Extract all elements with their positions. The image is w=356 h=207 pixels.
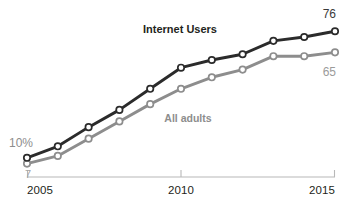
chart-canvas: 2005 2010 2015 Internet Users All adults… [0, 0, 356, 207]
data-point-internet-users-2009 [147, 86, 153, 92]
data-point-all-adults-2007 [85, 135, 91, 141]
series-annotation-internet-users: Internet Users [143, 23, 217, 35]
data-point-internet-users-2007 [85, 124, 91, 130]
series-markers-internet-users [24, 28, 338, 161]
end-value-label-all-adults: 65 [323, 65, 337, 79]
data-point-all-adults-2013 [270, 53, 276, 59]
data-point-all-adults-2009 [147, 101, 153, 107]
data-point-internet-users-2015 [332, 28, 338, 34]
data-point-all-adults-2014 [301, 53, 307, 59]
series-annotation-all-adults: All adults [164, 112, 211, 124]
end-value-label-internet-users: 76 [323, 7, 337, 21]
data-point-all-adults-2010 [178, 86, 184, 92]
x-tick-label-2005: 2005 [27, 184, 53, 196]
data-point-internet-users-2011 [209, 57, 215, 63]
data-point-internet-users-2010 [178, 64, 184, 70]
data-point-internet-users-2008 [116, 107, 122, 113]
data-point-internet-users-2006 [55, 143, 61, 149]
data-point-internet-users-2012 [239, 51, 245, 57]
line-chart-container: 2005 2010 2015 Internet Users All adults… [0, 0, 356, 207]
data-point-internet-users-2005 [24, 155, 30, 161]
data-point-internet-users-2014 [301, 34, 307, 40]
start-value-label-internet-users: 10% [9, 136, 33, 150]
data-point-all-adults-2008 [116, 118, 122, 124]
data-point-all-adults-2006 [55, 153, 61, 159]
x-tick-label-2015: 2015 [309, 184, 335, 196]
start-value-label-all-adults: 7 [25, 168, 31, 180]
data-point-internet-users-2013 [270, 38, 276, 44]
data-point-all-adults-2012 [239, 66, 245, 72]
data-point-all-adults-2011 [209, 74, 215, 80]
x-tick-label-2010: 2010 [168, 184, 194, 196]
series-line-internet-users [27, 31, 335, 158]
data-point-all-adults-2015 [332, 49, 338, 55]
